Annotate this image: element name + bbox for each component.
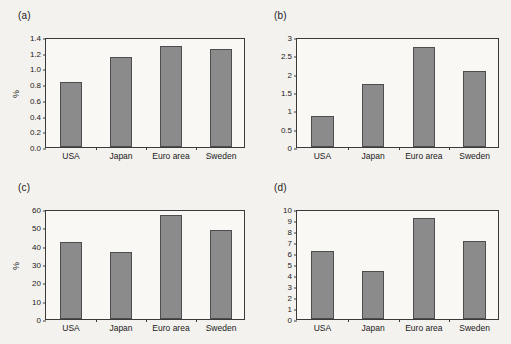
- y-axis-tick-label: 2: [288, 72, 297, 80]
- y-axis-tick-label: 20: [32, 280, 46, 288]
- x-axis-category-label: USA: [314, 152, 331, 161]
- y-axis-tick-label: 0.4: [30, 114, 46, 122]
- bar-usa: [311, 251, 333, 319]
- x-axis-category-label: USA: [62, 324, 79, 333]
- panel-label-a: (a): [18, 10, 31, 21]
- y-axis-tick-label: 0: [288, 317, 297, 325]
- bar-sweden: [463, 71, 485, 147]
- y-axis-tick-label: 8: [288, 229, 297, 237]
- x-axis-category-label: Sweden: [459, 324, 490, 333]
- y-axis-tick-label: 3: [288, 35, 297, 43]
- x-axis-tick: [196, 319, 197, 322]
- x-axis-category-label: Japan: [362, 152, 385, 161]
- bar-usa: [60, 242, 82, 319]
- y-axis-tick-label: 0: [288, 145, 297, 153]
- x-axis-category-label: Sweden: [206, 152, 237, 161]
- y-axis-title: %: [12, 262, 21, 270]
- y-axis-tick-label: 1: [288, 306, 297, 314]
- plot-area-b: 00.511.522.53USAJapanEuro areaSweden: [296, 38, 499, 148]
- x-axis-category-label: Sweden: [206, 324, 237, 333]
- y-axis-tick-label: 10: [283, 207, 297, 215]
- x-axis-tick: [348, 319, 349, 322]
- bar-euro-area: [413, 47, 435, 147]
- x-axis-category-label: Euro area: [405, 152, 442, 161]
- x-axis-category-label: Euro area: [152, 152, 189, 161]
- plot-area-a: 0.00.20.40.60.81.01.21.4%USAJapanEuro ar…: [45, 38, 245, 148]
- plot-area-d: 012345678910USAJapanEuro areaSweden: [296, 210, 499, 320]
- x-axis-category-label: Euro area: [152, 324, 189, 333]
- plot-area-c: 0102030405060%USAJapanEuro areaSweden: [45, 210, 245, 320]
- x-axis-tick: [348, 147, 349, 150]
- bar-japan: [110, 252, 132, 319]
- x-axis-category-label: Japan: [109, 324, 132, 333]
- y-axis-tick-label: 1.2: [30, 51, 46, 59]
- x-axis-category-label: Sweden: [459, 152, 490, 161]
- y-axis-tick-label: 6: [288, 251, 297, 259]
- bar-usa: [60, 82, 82, 147]
- x-axis-tick: [146, 147, 147, 150]
- bar-japan: [362, 271, 384, 319]
- y-axis-tick-label: 9: [288, 218, 297, 226]
- bar-euro-area: [413, 218, 435, 319]
- x-axis-tick: [449, 147, 450, 150]
- x-axis-category-label: Japan: [109, 152, 132, 161]
- x-axis-tick: [196, 147, 197, 150]
- y-axis-tick-label: 1.4: [30, 35, 46, 43]
- bar-japan: [362, 84, 384, 147]
- panel-label-c: (c): [18, 182, 30, 193]
- y-axis-tick-label: 1: [288, 108, 297, 116]
- y-axis-tick-label: 60: [32, 207, 46, 215]
- x-axis-category-label: Japan: [362, 324, 385, 333]
- y-axis-tick-label: 4: [288, 273, 297, 281]
- y-axis-tick-label: 30: [32, 262, 46, 270]
- x-axis-category-label: USA: [314, 324, 331, 333]
- panel-label-d: (d): [274, 182, 287, 193]
- y-axis-tick-label: 50: [32, 225, 46, 233]
- panel-label-b: (b): [274, 10, 287, 21]
- y-axis-tick-label: 7: [288, 240, 297, 248]
- y-axis-tick-label: 0: [37, 317, 46, 325]
- x-axis-tick: [449, 319, 450, 322]
- x-axis-tick: [399, 147, 400, 150]
- y-axis-tick-label: 3: [288, 284, 297, 292]
- x-axis-tick: [146, 319, 147, 322]
- x-axis-tick: [96, 147, 97, 150]
- y-axis-tick-label: 2: [288, 295, 297, 303]
- y-axis-tick-label: 2.5: [281, 53, 297, 61]
- y-axis-tick-label: 5: [288, 262, 297, 270]
- panel-a: (a) 0.00.20.40.60.81.01.21.4%USAJapanEur…: [0, 0, 255, 172]
- y-axis-tick-label: 0.8: [30, 82, 46, 90]
- y-axis-tick-label: 40: [32, 244, 46, 252]
- bar-sweden: [463, 241, 485, 319]
- x-axis-tick: [399, 319, 400, 322]
- bar-euro-area: [160, 215, 182, 320]
- bar-euro-area: [160, 46, 182, 147]
- x-axis-tick: [96, 319, 97, 322]
- x-axis-category-label: Euro area: [405, 324, 442, 333]
- y-axis-tick-label: 0.0: [30, 145, 46, 153]
- y-axis-tick-label: 0.6: [30, 98, 46, 106]
- bar-usa: [311, 116, 333, 147]
- bar-sweden: [210, 49, 232, 147]
- panel-c: (c) 0102030405060%USAJapanEuro areaSwede…: [0, 172, 255, 344]
- y-axis-tick-label: 1.5: [281, 90, 297, 98]
- y-axis-tick-label: 0.5: [281, 127, 297, 135]
- bar-sweden: [210, 230, 232, 319]
- y-axis-tick-label: 10: [32, 299, 46, 307]
- panel-b: (b) 00.511.522.53USAJapanEuro areaSweden: [256, 0, 511, 172]
- y-axis-tick-label: 0.2: [30, 129, 46, 137]
- y-axis-tick-label: 1.0: [30, 66, 46, 74]
- x-axis-category-label: USA: [62, 152, 79, 161]
- panel-d: (d) 012345678910USAJapanEuro areaSweden: [256, 172, 511, 344]
- bar-japan: [110, 57, 132, 147]
- figure-canvas: (a) 0.00.20.40.60.81.01.21.4%USAJapanEur…: [0, 0, 511, 344]
- y-axis-title: %: [12, 90, 21, 98]
